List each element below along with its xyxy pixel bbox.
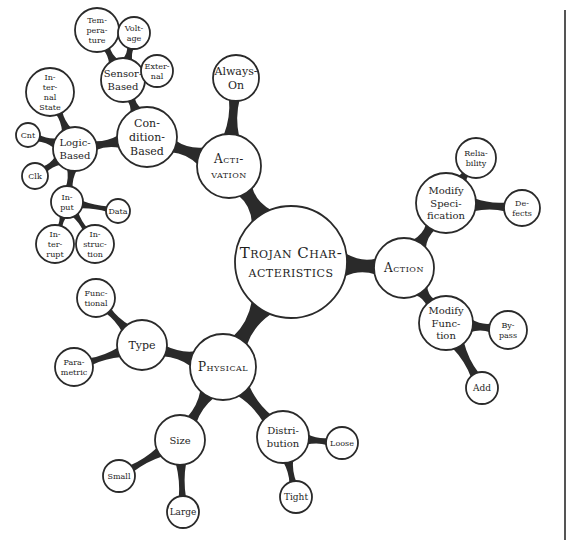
- node-label: bution: [267, 438, 300, 449]
- node-temperature: Tem-pera-ture: [75, 8, 119, 52]
- node-label: Exter-: [145, 62, 170, 71]
- node-label: By-: [501, 321, 514, 330]
- edge-root-action: [344, 253, 376, 276]
- node-label: Loose: [330, 439, 354, 448]
- node-label: bility: [466, 159, 487, 168]
- node-label: Size: [169, 435, 190, 446]
- node-label: Func-: [84, 289, 107, 298]
- node-clk: Clk: [22, 163, 48, 189]
- node-label: Action: [383, 261, 424, 275]
- node-label: Para-: [63, 358, 84, 367]
- node-label: Trojan Char-: [240, 244, 342, 262]
- node-label: vation: [210, 167, 247, 181]
- node-label: put: [60, 203, 74, 212]
- node-label: De-: [515, 199, 529, 208]
- edge-input-data: [80, 201, 109, 212]
- node-label: Modify: [428, 185, 464, 196]
- node-label: acteristics: [247, 263, 333, 281]
- node-action: Action: [374, 238, 434, 298]
- node-label: Based: [130, 145, 164, 158]
- node-label: Type: [128, 339, 155, 352]
- node-distribution: Distri-bution: [257, 411, 309, 463]
- node-root: Trojan Char-acteristics: [235, 206, 347, 318]
- node-label: State: [39, 103, 61, 112]
- node-label: age: [127, 34, 142, 43]
- node-label: In-: [61, 193, 72, 202]
- node-label: On: [228, 79, 244, 92]
- node-label: pera-: [86, 26, 107, 35]
- node-voltage: Volt-age: [118, 17, 150, 49]
- node-data: Data: [106, 199, 130, 223]
- node-label: Based: [108, 81, 139, 92]
- node-label: Tight: [284, 492, 308, 502]
- node-internal-state: In-ter-nalState: [26, 68, 74, 116]
- node-interrupt: In-ter-rupt: [36, 225, 74, 263]
- node-tight: Tight: [280, 481, 312, 513]
- node-label: nal: [44, 93, 57, 102]
- node-functional: Func-tional: [77, 279, 115, 317]
- node-label: rupt: [46, 250, 64, 259]
- node-label: Relia-: [464, 149, 488, 158]
- node-label: Func-: [432, 318, 461, 329]
- page-border-line: [564, 10, 566, 540]
- node-logic-based: Logic-Based: [53, 127, 97, 171]
- node-label: Sensor-: [104, 68, 143, 79]
- node-label: Always-: [213, 65, 257, 78]
- trojan-characteristics-mind-map: Trojan Char-acteristicsActi-vationAction…: [0, 0, 568, 540]
- node-label: tional: [84, 299, 108, 308]
- node-label: Cnt: [21, 131, 36, 140]
- node-cnt: Cnt: [16, 123, 40, 147]
- node-label: pass: [499, 331, 517, 340]
- nodes: Trojan Char-acteristicsActi-vationAction…: [16, 8, 540, 528]
- node-condition-based: Con-dition-Based: [117, 107, 177, 167]
- node-label: tion: [87, 250, 103, 259]
- node-size: Size: [155, 415, 205, 465]
- node-label: Distri-: [267, 425, 299, 436]
- node-parametric: Para-metric: [55, 348, 93, 386]
- node-label: Tem-: [87, 16, 107, 25]
- node-sensor-based: Sensor-Based: [101, 58, 145, 102]
- node-add: Add: [466, 372, 498, 404]
- node-instruction: In-struc-tion: [76, 225, 114, 263]
- node-external: Exter-nal: [141, 55, 173, 87]
- node-modify-function: ModifyFunc-tion: [419, 296, 473, 350]
- node-label: fication: [427, 210, 465, 221]
- node-label: Physical: [198, 360, 248, 374]
- node-label: Clk: [28, 172, 42, 181]
- node-label: Logic-: [59, 137, 90, 148]
- node-label: metric: [61, 368, 88, 377]
- node-loose: Loose: [326, 427, 358, 459]
- node-label: nal: [151, 72, 164, 81]
- node-small: Small: [103, 460, 135, 492]
- node-reliability: Relia-bility: [456, 138, 496, 178]
- node-label: dition-: [129, 131, 165, 144]
- node-label: ture: [89, 36, 106, 45]
- node-label: In-: [49, 230, 60, 239]
- node-label: In-: [89, 230, 100, 239]
- node-label: Volt-: [124, 24, 144, 33]
- node-activation: Acti-vation: [197, 134, 261, 198]
- node-label: Data: [108, 207, 127, 216]
- node-label: Add: [472, 383, 491, 393]
- node-label: tion: [436, 330, 456, 341]
- edge-size-large: [176, 463, 186, 498]
- node-physical: Physical: [190, 334, 256, 400]
- node-label: struc-: [83, 240, 107, 249]
- node-bypass: By-pass: [489, 311, 527, 349]
- node-large: Large: [167, 496, 199, 528]
- node-label: Speci-: [430, 198, 461, 209]
- edge-modify-specification-defects: [474, 198, 507, 211]
- node-always-on: Always-On: [213, 55, 259, 101]
- node-input: In-put: [51, 186, 83, 218]
- node-type: Type: [117, 320, 167, 370]
- node-label: Small: [108, 472, 131, 481]
- node-label: ter-: [43, 83, 58, 92]
- node-label: fects: [512, 209, 532, 218]
- node-label: ter-: [48, 240, 63, 249]
- node-label: Modify: [428, 305, 464, 316]
- node-defects: De-fects: [504, 190, 540, 226]
- node-label: Based: [60, 150, 91, 161]
- node-label: In-: [44, 73, 55, 82]
- node-label: Acti-: [213, 152, 244, 166]
- edge-activation-always-on: [224, 99, 240, 137]
